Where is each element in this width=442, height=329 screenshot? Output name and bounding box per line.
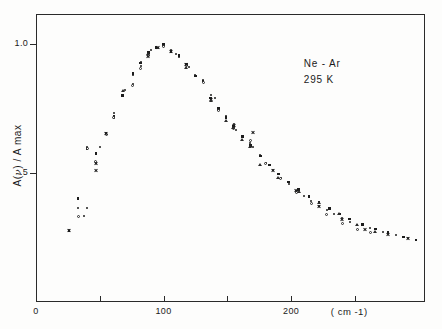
annotation-temperature: 295 K	[304, 72, 341, 88]
annotation-sample: Ne - Ar	[304, 56, 341, 72]
x-tick-label: 0	[16, 306, 56, 316]
plot-annotation: Ne - Ar 295 K	[304, 56, 341, 88]
x-tick-250	[355, 296, 356, 302]
x-tick-50	[100, 296, 101, 302]
nu-symbol: ν	[12, 169, 23, 176]
y-axis-title: A(ν) / A max	[12, 101, 23, 211]
plot-frame	[36, 14, 425, 302]
y-axis-title-prefix: A(	[12, 175, 23, 186]
y-tick-p5	[30, 173, 36, 174]
y-tick-label: 1.0	[2, 38, 28, 48]
x-tick-150	[227, 296, 228, 302]
figure-canvas: .51.0 0100200 A(ν) / A max ( cm -1) Ne -…	[0, 0, 442, 329]
x-axis-unit-label: ( cm -1)	[331, 306, 368, 317]
x-tick-0	[36, 296, 37, 302]
x-tick-200	[291, 296, 292, 302]
y-tick-1p0	[30, 44, 36, 45]
y-axis-title-suffix: ) / A max	[12, 124, 23, 168]
x-tick-label: 100	[144, 306, 184, 316]
x-tick-100	[164, 296, 165, 302]
x-tick-label: 200	[271, 306, 311, 316]
